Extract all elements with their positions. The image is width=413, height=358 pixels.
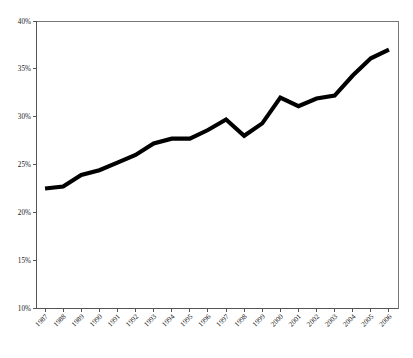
chart-container: 40%35%30%25%20%15%10% 198719881989199019… [0,0,413,358]
y-axis-tick-label: 25% [18,161,31,169]
y-axis-tick-label: 15% [18,257,31,265]
chart-background [0,0,413,358]
y-axis-tick-label: 35% [18,65,31,73]
y-axis-tick-label: 10% [18,305,31,313]
y-axis-tick-label: 40% [18,18,31,26]
y-axis-tick-label: 30% [18,113,31,121]
y-axis-tick-label: 20% [18,209,31,217]
line-chart: 40%35%30%25%20%15%10% 198719881989199019… [0,0,413,358]
